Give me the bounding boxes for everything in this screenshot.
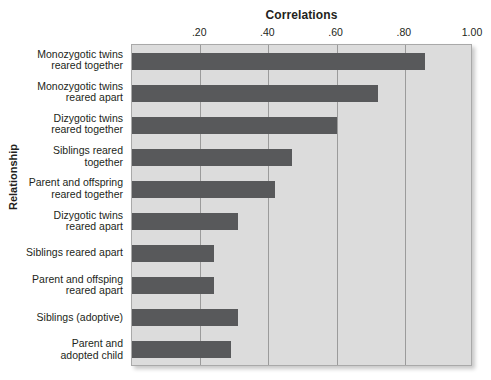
bar-chart: Correlations .20.40.60.801.00 Monozygoti… [0, 0, 491, 380]
bar [132, 309, 238, 326]
bar [132, 181, 275, 198]
bar-row [132, 109, 471, 141]
bar [132, 53, 425, 70]
bar-row [132, 77, 471, 109]
x-axis-tick-label: .80 [396, 26, 411, 38]
y-axis-tick-label: Parent and adopted child [18, 334, 127, 366]
y-axis-tick-label: Dizygotic twins reared apart [18, 205, 127, 237]
chart-title: Correlations [131, 8, 472, 22]
bar [132, 341, 231, 358]
plot-area [131, 44, 472, 366]
x-axis-tick-label: .60 [328, 26, 343, 38]
y-axis-tick-label: Siblings (adoptive) [18, 302, 127, 334]
bar-row [132, 237, 471, 269]
bar [132, 277, 214, 294]
bars-layer [132, 45, 471, 365]
y-axis-tick-label: Parent and offsping reared apart [18, 269, 127, 301]
y-axis-tick-label: Monozygotic twins reared apart [18, 76, 127, 108]
y-axis-tick-label: Siblings reared together [18, 141, 127, 173]
bar-row [132, 269, 471, 301]
y-axis-tick-label: Dizygotic twins reared together [18, 108, 127, 140]
y-axis-tick-label: Parent and offspring reared together [18, 173, 127, 205]
bar-row [132, 205, 471, 237]
y-axis-tick-label: Siblings reared apart [18, 237, 127, 269]
y-axis-tick-label: Monozygotic twins reared together [18, 44, 127, 76]
x-axis-tick-label: .40 [260, 26, 275, 38]
y-axis-title: Relationship [7, 112, 19, 242]
y-axis-tick-labels: Monozygotic twins reared togetherMonozyg… [18, 44, 127, 366]
bar-row [132, 301, 471, 333]
x-axis-tick-label: .20 [192, 26, 207, 38]
bar [132, 213, 238, 230]
bar-row [132, 333, 471, 365]
bar [132, 117, 337, 134]
bar-row [132, 45, 471, 77]
x-axis-tick-labels: .20.40.60.801.00 [0, 26, 491, 42]
bar [132, 149, 292, 166]
bar [132, 85, 378, 102]
bar-row [132, 141, 471, 173]
x-axis-tick-label: 1.00 [462, 26, 482, 38]
bar-row [132, 173, 471, 205]
bar [132, 245, 214, 262]
